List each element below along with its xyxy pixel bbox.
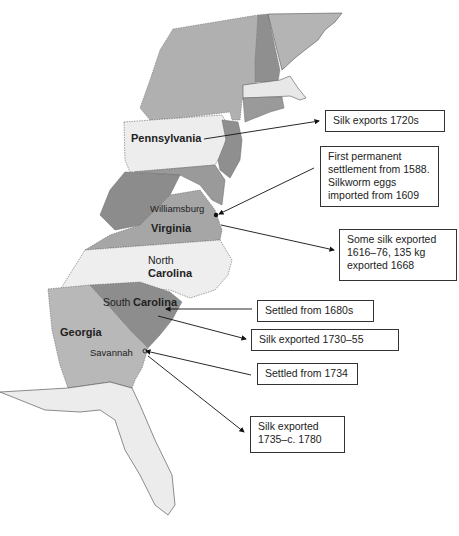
callout-line: imported from 1609 — [328, 189, 431, 202]
label-north-carolina: Carolina — [148, 267, 192, 279]
region-maine — [268, 13, 342, 70]
callout-line: Silkworm eggs — [328, 176, 431, 189]
arrow-ga-silk — [148, 356, 244, 432]
arrow-va-silk — [221, 225, 334, 250]
arrow-va-settlement — [219, 168, 314, 214]
arrow-sc-silk — [158, 316, 246, 339]
label-georgia: Georgia — [60, 326, 102, 338]
callout-text: Settled from 1680s — [265, 304, 353, 316]
label-north: North — [148, 254, 174, 266]
callout-line: First permanent — [328, 150, 431, 163]
label-virginia: Virginia — [151, 222, 191, 234]
label-south-carolina: Carolina — [133, 296, 177, 308]
callout-sc-settled: Settled from 1680s — [257, 300, 374, 322]
callout-ga-silk: Silk exported 1735–c. 1780 — [250, 416, 345, 453]
callout-text: Silk exports 1720s — [333, 114, 419, 126]
region-florida — [0, 382, 175, 515]
callout-pa-silk: Silk exports 1720s — [325, 110, 445, 132]
region-connecticut — [243, 97, 284, 122]
callout-line: Silk exported — [258, 420, 337, 433]
callout-text: Silk exported 1730–55 — [259, 333, 364, 345]
callout-line: exported 1668 — [347, 259, 449, 272]
callout-line: 1735–c. 1780 — [258, 433, 337, 446]
callout-va-settlement: First permanent settlement from 1588. Si… — [320, 146, 439, 207]
arrow-ga-settled — [146, 351, 251, 375]
callout-line: 1616–76, 135 kg — [347, 246, 449, 259]
callout-ga-settled: Settled from 1734 — [257, 363, 358, 385]
label-williamsburg: Williamsburg — [150, 203, 204, 214]
label-south: South — [103, 296, 130, 308]
callout-va-silk: Some silk exported 1616–76, 135 kg expor… — [339, 229, 457, 281]
callout-line: Some silk exported — [347, 233, 449, 246]
label-savannah: Savannah — [90, 347, 133, 358]
label-pennsylvania: Pennsylvania — [131, 132, 201, 144]
callout-sc-silk: Silk exported 1730–55 — [251, 329, 399, 351]
callout-text: Settled from 1734 — [265, 367, 348, 379]
callout-line: settlement from 1588. — [328, 163, 431, 176]
jamestown-marker — [214, 213, 218, 217]
